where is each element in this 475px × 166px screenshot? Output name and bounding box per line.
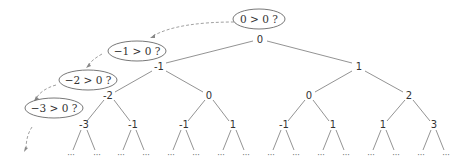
node-l1-0: -1 <box>154 61 164 72</box>
ellipsis: ··· <box>367 151 375 160</box>
node-l2-0: -2 <box>103 90 113 101</box>
ellipsis: ··· <box>217 151 225 160</box>
ellipsis: ··· <box>242 151 250 160</box>
node-root: 0 <box>257 34 263 45</box>
ellipsis: ··· <box>442 151 450 160</box>
ellipsis: ··· <box>192 151 200 160</box>
ellipsis: ··· <box>167 151 175 160</box>
ellipsis: ··· <box>267 151 275 160</box>
question-root: 0 > 0 ? <box>240 13 278 25</box>
node-l2-3: 2 <box>406 90 412 101</box>
ellipsis: ··· <box>292 151 300 160</box>
ellipsis: ··· <box>142 151 150 160</box>
node-l3-1: -1 <box>128 119 138 130</box>
node-l3-4: -1 <box>279 119 289 130</box>
node-l3-3: 1 <box>230 119 236 130</box>
ellipsis: ··· <box>117 151 125 160</box>
tree-diagram: 0 > 0 ? −1 > 0 ? −2 > 0 ? −3 > 0 ? 0 -1 … <box>0 0 475 166</box>
node-l2-2: 0 <box>306 90 312 101</box>
node-l3-2: -1 <box>179 119 189 130</box>
ellipsis: ··· <box>93 151 101 160</box>
tree-svg: 0 > 0 ? −1 > 0 ? −2 > 0 ? −3 > 0 ? 0 -1 … <box>0 0 475 166</box>
question-2: −2 > 0 ? <box>65 74 112 86</box>
ellipsis: ··· <box>317 151 325 160</box>
node-l3-6: 1 <box>380 119 386 130</box>
ellipsis: ··· <box>342 151 350 160</box>
ellipsis: ··· <box>392 151 400 160</box>
ellipsis: ··· <box>67 151 75 160</box>
node-l3-0: -3 <box>79 119 89 130</box>
ellipsis: ··· <box>417 151 425 160</box>
node-l1-1: 1 <box>356 61 362 72</box>
leaf-ellipses: ··· ··· ··· ··· ··· ··· ··· ··· ··· ··· … <box>67 151 450 160</box>
node-l2-1: 0 <box>206 90 212 101</box>
question-1: −1 > 0 ? <box>114 45 161 57</box>
node-l3-7: 3 <box>431 119 437 130</box>
node-l3-5: 1 <box>330 119 336 130</box>
question-3: −3 > 0 ? <box>31 102 78 114</box>
